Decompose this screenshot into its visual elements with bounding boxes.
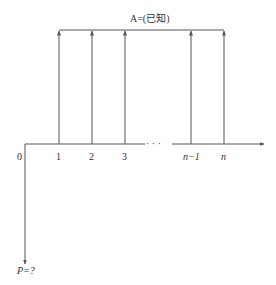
period-label-3: 3 bbox=[122, 151, 127, 162]
period-label-2: 2 bbox=[89, 151, 94, 162]
origin-label: 0 bbox=[17, 151, 22, 162]
annuity-arrows bbox=[59, 31, 224, 144]
period-label-1: 1 bbox=[56, 151, 61, 162]
annuity-label: A=(已知) bbox=[130, 12, 170, 25]
present-value-label: P=? bbox=[16, 265, 35, 276]
cash-flow-diagram: A=(已知) 0 1 2 3 · · · n−1 n P=? bbox=[0, 0, 276, 285]
period-label-n-1: n−1 bbox=[183, 151, 200, 162]
ellipsis: · · · bbox=[146, 138, 161, 149]
period-label-n: n bbox=[221, 151, 226, 162]
